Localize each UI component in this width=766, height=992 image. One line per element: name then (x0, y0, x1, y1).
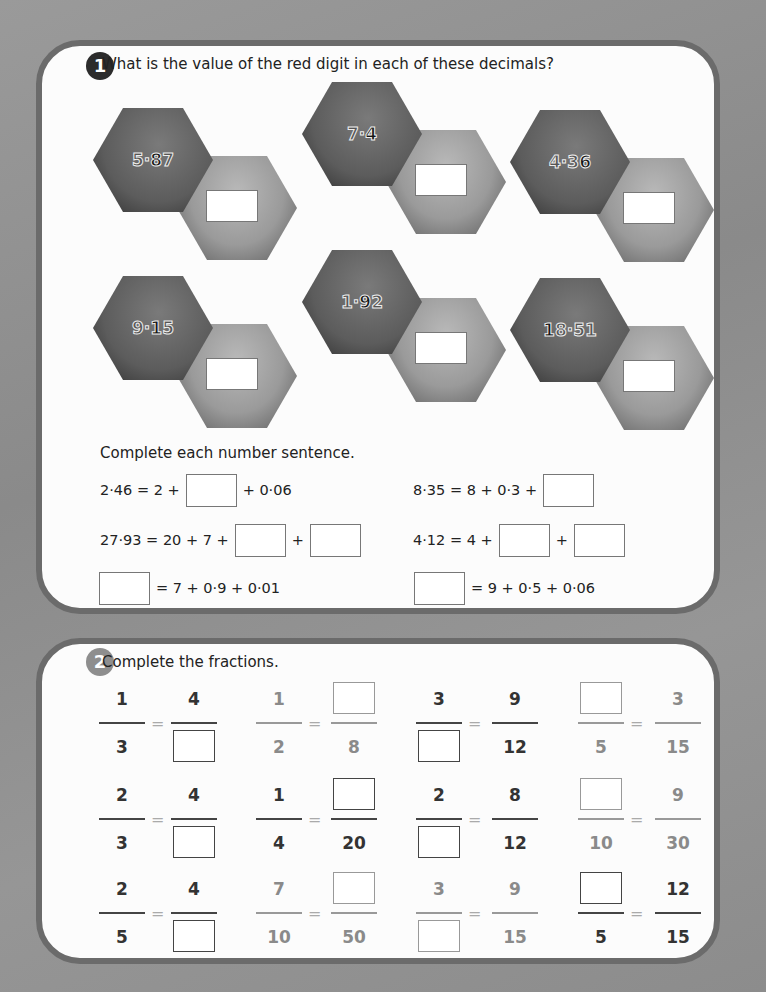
hex-pair-5: 1·92 (302, 250, 502, 410)
answer-box[interactable] (310, 524, 361, 557)
denominator: 3 (99, 730, 145, 764)
fraction-bar (331, 722, 377, 724)
numerator: 9 (492, 682, 538, 716)
denominator-answer-box[interactable] (173, 920, 215, 952)
number-sentence-5: = 7 + 0·9 + 0·01 (99, 571, 280, 605)
hex-pair-1: 5·87 (93, 108, 293, 268)
denominator: 50 (331, 920, 377, 954)
denominator: 8 (331, 730, 377, 764)
numerator: 1 (99, 682, 145, 716)
number-sentence-1: 2·46 = 2 + + 0·06 (100, 473, 292, 507)
numerator: 3 (416, 682, 462, 716)
fraction-left: 13 (99, 682, 145, 764)
fraction-bar (492, 912, 538, 914)
numerator-answer-box[interactable] (580, 778, 622, 810)
numerator: 3 (416, 872, 462, 906)
red-digit: 1 (150, 318, 162, 338)
sentence-text: 2·46 = 2 + (100, 482, 180, 498)
sentence-text: 4·12 = 4 + (413, 532, 493, 548)
fraction-bar (655, 912, 701, 914)
fraction-right: 8 (331, 682, 377, 764)
equals-sign: = (630, 904, 643, 923)
numerator-answer-box[interactable] (333, 778, 375, 810)
fraction-bar (416, 912, 462, 914)
numerator: 2 (416, 778, 462, 812)
fraction-bar (171, 722, 217, 724)
red-digit: 9 (359, 292, 371, 312)
fraction-right: 812 (492, 778, 538, 860)
numerator-answer-box[interactable] (333, 682, 375, 714)
numerator: 2 (99, 778, 145, 812)
fraction-right: 4 (171, 682, 217, 764)
numerator: 9 (492, 872, 538, 906)
answer-box[interactable] (206, 190, 258, 222)
sentence-text: = 7 + 0·9 + 0·01 (156, 580, 280, 596)
sentence-text: + 0·06 (243, 482, 292, 498)
fraction-bar (171, 912, 217, 914)
denominator: 12 (492, 730, 538, 764)
numerator: 7 (256, 872, 302, 906)
numerator-answer-box[interactable] (580, 872, 622, 904)
fraction-right: 315 (655, 682, 701, 764)
answer-box[interactable] (415, 164, 467, 196)
sentence-text: = 9 + 0·5 + 0·06 (471, 580, 595, 596)
denominator-answer-box[interactable] (418, 826, 460, 858)
denominator: 5 (99, 920, 145, 954)
decimal-value: 18·51 (510, 278, 630, 382)
fraction-left: 710 (256, 872, 302, 954)
answer-box[interactable] (414, 572, 465, 605)
answer-box[interactable] (574, 524, 625, 557)
answer-box[interactable] (499, 524, 550, 557)
equals-sign: = (308, 810, 321, 829)
numerator-answer-box[interactable] (580, 682, 622, 714)
fraction-bar (99, 912, 145, 914)
answer-box[interactable] (206, 358, 258, 390)
number-sentence-3: 27·93 = 20 + 7 + + (100, 523, 361, 557)
numerator: 4 (171, 682, 217, 716)
number-sentence-4: 4·12 = 4 + + (413, 523, 625, 557)
answer-box[interactable] (186, 474, 237, 507)
denominator: 10 (578, 826, 624, 860)
fraction-left: 25 (99, 872, 145, 954)
equals-sign: = (468, 904, 481, 923)
fraction-bar (416, 818, 462, 820)
fraction-right: 4 (171, 778, 217, 860)
denominator: 20 (331, 826, 377, 860)
fraction-bar (256, 818, 302, 820)
fraction-bar (256, 722, 302, 724)
fraction-left: 3 (416, 682, 462, 764)
fraction-left: 23 (99, 778, 145, 860)
fraction-right: 1215 (655, 872, 701, 954)
fraction-bar (492, 722, 538, 724)
denominator-answer-box[interactable] (418, 920, 460, 952)
denominator: 5 (578, 730, 624, 764)
answer-box[interactable] (415, 332, 467, 364)
fraction-left: 10 (578, 778, 624, 860)
fraction-bar (331, 912, 377, 914)
denominator-answer-box[interactable] (173, 730, 215, 762)
answer-box[interactable] (543, 474, 594, 507)
sentence-text: + (556, 532, 568, 548)
fraction-right: 50 (331, 872, 377, 954)
fraction-bar (578, 722, 624, 724)
answer-box[interactable] (623, 192, 675, 224)
answer-box[interactable] (99, 572, 150, 605)
numerator: 4 (171, 778, 217, 812)
numerator: 2 (99, 872, 145, 906)
denominator-answer-box[interactable] (173, 826, 215, 858)
answer-box[interactable] (235, 524, 286, 557)
question-2-prompt: Complete the fractions. (102, 653, 279, 671)
denominator: 10 (256, 920, 302, 954)
denominator-answer-box[interactable] (418, 730, 460, 762)
equals-sign: = (630, 714, 643, 733)
answer-box[interactable] (623, 360, 675, 392)
numerator: 1 (256, 778, 302, 812)
fraction-bar (416, 722, 462, 724)
equals-sign: = (630, 810, 643, 829)
fraction-left: 14 (256, 778, 302, 860)
fraction-bar (99, 818, 145, 820)
sentence-text: + (292, 532, 304, 548)
numerator-answer-box[interactable] (333, 872, 375, 904)
fraction-bar (492, 818, 538, 820)
fraction-bar (331, 818, 377, 820)
